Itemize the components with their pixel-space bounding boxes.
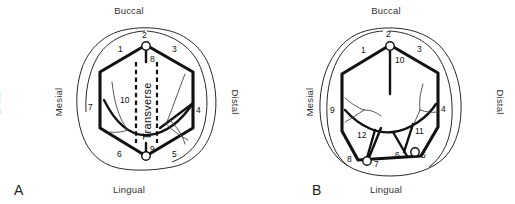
panel-a-number-7: 7 [88, 102, 93, 112]
figure-root: Buccal Lingual Mesial Distal A [0, 0, 515, 204]
panel-a-number-4: 4 [196, 105, 201, 115]
panel-b-fissure-right-2 [420, 110, 437, 112]
panel-b-number-9: 9 [330, 105, 335, 115]
panel-b-node-lingual-mesial [363, 157, 371, 165]
panel-a-number-1: 1 [118, 44, 123, 54]
panel-b-number-5: 5 [421, 150, 426, 160]
panel-a-number-3: 3 [172, 44, 177, 54]
panel-b-number-7: 7 [374, 159, 379, 169]
panel-b-number-10: 10 [395, 55, 405, 65]
panel-b-number-1: 1 [361, 45, 366, 55]
panel-b-number-4: 4 [441, 104, 446, 114]
panel-b-diagram: 1 2 3 4 5 6 7 8 9 10 11 12 [257, 0, 515, 204]
panel-b-node-buccal [386, 42, 394, 50]
panel-b-number-11: 11 [415, 126, 424, 136]
panel-a: Buccal Lingual Mesial Distal A [0, 0, 258, 204]
panel-b-number-6: 6 [395, 150, 400, 160]
panel-b-fissure-left-3 [364, 110, 381, 116]
panel-a-fissure-2 [110, 130, 128, 132]
panel-b-number-2: 2 [386, 29, 391, 39]
panel-a-oblique-ridge [160, 104, 192, 128]
panel-b-fissure-right-1 [420, 84, 423, 110]
panel-a-number-2: 2 [142, 30, 147, 40]
panel-b: Buccal Lingual Mesial Distal B [257, 0, 515, 204]
panel-a-number-10: 10 [120, 95, 130, 105]
far-left-distal-label: Distal [0, 90, 1, 115]
panel-b-fissure-left-1 [345, 98, 364, 110]
panel-a-diagram: 1 2 3 4 5 6 7 8 9 10 Transverse [0, 0, 258, 204]
panel-a-node-lingual [142, 152, 150, 160]
panel-b-number-3: 3 [417, 44, 422, 54]
panel-b-number-8: 8 [347, 154, 352, 164]
panel-a-number-8: 8 [150, 54, 155, 64]
panel-a-number-9: 9 [150, 144, 155, 154]
panel-a-transverse-label: Transverse [141, 82, 153, 140]
panel-a-number-5: 5 [172, 149, 177, 159]
panel-a-number-6: 6 [117, 149, 122, 159]
panel-b-number-12: 12 [357, 130, 367, 140]
panel-a-node-buccal [142, 42, 150, 50]
panel-b-node-lingual-distal [411, 148, 419, 156]
